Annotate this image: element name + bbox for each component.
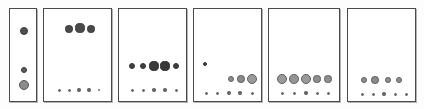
panel-1[interactable]: [9, 8, 37, 102]
panel-5[interactable]: [268, 8, 340, 102]
data-point-dot: [293, 92, 296, 95]
data-point-dot: [163, 88, 166, 91]
panel-2[interactable]: [43, 8, 112, 102]
panel-plot-area: [269, 9, 339, 101]
data-point-dot: [77, 88, 80, 91]
panel-plot-area: [10, 9, 36, 101]
data-point-dot: [87, 88, 90, 91]
data-point-dot: [301, 74, 311, 84]
panel-plot-area: [348, 9, 415, 101]
data-point-dot: [152, 88, 155, 91]
data-point-dot: [372, 93, 375, 96]
data-point-dot: [382, 92, 385, 95]
data-point-dot: [68, 89, 71, 92]
multi-panel-dot-figure: [0, 0, 424, 109]
data-point-dot: [58, 89, 61, 92]
data-point-dot: [205, 92, 208, 95]
data-point-dot: [87, 25, 94, 32]
data-point-dot: [75, 23, 84, 32]
data-point-dot: [129, 63, 136, 70]
data-point-dot: [175, 89, 178, 92]
data-point-dot: [227, 91, 230, 94]
data-point-dot: [304, 91, 307, 94]
data-point-dot: [65, 25, 72, 32]
data-point-dot: [238, 91, 241, 94]
panel-4[interactable]: [193, 8, 262, 102]
data-point-dot: [313, 75, 320, 82]
panel-plot-area: [119, 9, 186, 101]
data-point-dot: [281, 92, 284, 95]
data-point-dot: [394, 93, 397, 96]
data-point-dot: [361, 93, 364, 96]
data-point-dot: [160, 61, 169, 70]
panel-6[interactable]: [347, 8, 416, 102]
data-point-dot: [237, 75, 245, 83]
data-point-dot: [149, 61, 158, 70]
data-point-dot: [316, 92, 319, 95]
data-point-dot: [405, 93, 408, 96]
data-point-dot: [173, 63, 180, 70]
data-point-dot: [396, 77, 402, 83]
data-point-dot: [140, 63, 147, 70]
data-point-dot: [289, 74, 299, 84]
data-point-dot: [251, 92, 254, 95]
data-point-dot: [19, 80, 29, 90]
data-point-dot: [131, 89, 134, 92]
panel-plot-area: [44, 9, 111, 101]
data-point-dot: [142, 89, 145, 92]
panel-3[interactable]: [118, 8, 187, 102]
data-point-dot: [20, 27, 28, 35]
data-point-dot: [21, 67, 27, 73]
data-point-dot: [371, 76, 379, 84]
data-point-dot: [247, 74, 257, 84]
data-point-dot: [327, 92, 330, 95]
data-point-dot: [216, 92, 219, 95]
data-point-dot: [277, 74, 287, 84]
data-point-dot: [385, 77, 391, 83]
data-point-dot: [98, 89, 101, 92]
data-point-dot: [228, 76, 234, 82]
data-point-dot: [324, 75, 331, 82]
panel-plot-area: [194, 9, 261, 101]
data-point-dot: [203, 62, 207, 66]
data-point-dot: [361, 77, 368, 84]
